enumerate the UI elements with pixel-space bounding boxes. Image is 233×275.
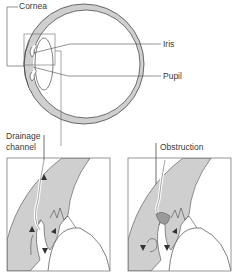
cornea-leader	[7, 7, 24, 66]
flow-arrow-down-icon	[42, 248, 48, 254]
eyeball	[24, 4, 144, 124]
label-channel: channel	[6, 143, 36, 152]
label-pupil: Pupil	[163, 72, 182, 81]
label-cornea: Cornea	[19, 2, 47, 11]
label-iris: Iris	[163, 40, 174, 49]
label-drainage: Drainage	[6, 132, 41, 141]
panel-normal-drainage	[7, 158, 110, 271]
panel-obstructed-drainage	[128, 158, 231, 271]
label-obstruction: Obstruction	[160, 143, 203, 152]
